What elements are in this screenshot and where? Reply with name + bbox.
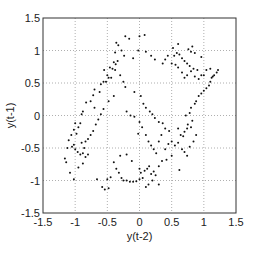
y-tick-label: -1 xyxy=(30,175,40,187)
data-point xyxy=(198,78,200,80)
data-point xyxy=(94,89,96,91)
data-point xyxy=(117,60,119,62)
data-point xyxy=(173,55,175,57)
data-point xyxy=(123,55,125,57)
data-point xyxy=(186,128,188,130)
data-point xyxy=(161,160,163,162)
data-point xyxy=(187,48,189,50)
y-tick-labels: -1.5-1-0.500.511.5 xyxy=(21,12,40,219)
data-point xyxy=(190,107,192,109)
data-point xyxy=(92,130,94,132)
data-point xyxy=(87,154,89,156)
data-point xyxy=(131,160,133,162)
data-point xyxy=(126,111,128,113)
data-point xyxy=(142,177,144,179)
data-point xyxy=(175,64,177,66)
data-point xyxy=(85,102,87,104)
y-tick-label: 1.5 xyxy=(25,12,40,24)
data-point xyxy=(122,180,124,182)
data-point xyxy=(209,81,211,83)
data-point xyxy=(178,53,180,55)
data-point xyxy=(139,168,141,170)
data-point xyxy=(148,141,150,143)
data-point xyxy=(171,63,173,65)
data-point xyxy=(74,148,76,150)
data-point xyxy=(187,124,189,126)
data-point xyxy=(73,129,75,131)
data-point xyxy=(212,76,214,78)
data-point xyxy=(87,138,89,140)
data-point xyxy=(112,68,114,70)
data-point xyxy=(177,66,179,68)
data-point xyxy=(64,157,66,159)
data-point xyxy=(148,165,150,167)
y-tick-label: 0 xyxy=(34,110,40,122)
data-point xyxy=(104,189,106,191)
data-point xyxy=(99,91,101,93)
data-point xyxy=(83,147,85,149)
data-point xyxy=(110,77,112,79)
data-point xyxy=(158,183,160,185)
data-point xyxy=(177,43,179,45)
data-point xyxy=(77,151,79,153)
data-point xyxy=(118,172,120,174)
data-point xyxy=(185,115,187,117)
data-point xyxy=(193,68,195,70)
data-point xyxy=(150,55,152,57)
data-point xyxy=(81,113,83,115)
data-point xyxy=(129,181,131,183)
x-axis-label: y(t-2) xyxy=(127,230,153,242)
data-point xyxy=(73,178,75,180)
data-point xyxy=(145,107,147,109)
data-point xyxy=(71,146,73,148)
data-point xyxy=(177,142,179,144)
data-point xyxy=(100,113,102,115)
data-point xyxy=(194,103,196,105)
data-point xyxy=(195,100,197,102)
data-point xyxy=(191,120,193,122)
data-point xyxy=(184,131,186,133)
data-point xyxy=(105,81,107,83)
data-point xyxy=(145,134,147,136)
data-point xyxy=(148,183,150,185)
data-point xyxy=(82,152,84,154)
data-point xyxy=(145,51,147,53)
data-point xyxy=(97,118,99,120)
data-point xyxy=(113,61,115,63)
data-point xyxy=(139,121,141,123)
data-point xyxy=(121,50,123,52)
data-point xyxy=(193,141,195,143)
data-point xyxy=(203,74,205,76)
data-point xyxy=(142,103,144,105)
data-point xyxy=(77,167,79,169)
data-point xyxy=(217,69,219,71)
x-tick-labels: -1.5-1-0.500.511.5 xyxy=(34,216,244,228)
data-point xyxy=(124,35,126,37)
data-point xyxy=(196,69,198,71)
data-point xyxy=(205,87,207,89)
data-point xyxy=(73,144,75,146)
data-point xyxy=(109,66,111,68)
data-point xyxy=(208,85,210,87)
x-tick-label: 0.5 xyxy=(164,216,179,228)
data-point xyxy=(110,176,112,178)
data-point xyxy=(178,169,180,171)
data-point xyxy=(184,151,186,153)
data-point xyxy=(122,81,124,83)
data-point xyxy=(158,121,160,123)
data-point xyxy=(115,42,117,44)
data-point xyxy=(114,69,116,71)
data-point xyxy=(113,161,115,163)
data-point xyxy=(155,152,157,154)
data-point xyxy=(106,178,108,180)
data-point xyxy=(124,86,126,88)
data-point xyxy=(164,59,166,61)
data-point xyxy=(164,128,166,130)
data-point xyxy=(126,180,128,182)
data-point xyxy=(162,122,164,124)
data-point xyxy=(133,91,135,93)
x-tick-label: 1 xyxy=(201,216,207,228)
data-point xyxy=(117,44,119,46)
data-point xyxy=(115,63,117,65)
data-point xyxy=(172,47,174,49)
